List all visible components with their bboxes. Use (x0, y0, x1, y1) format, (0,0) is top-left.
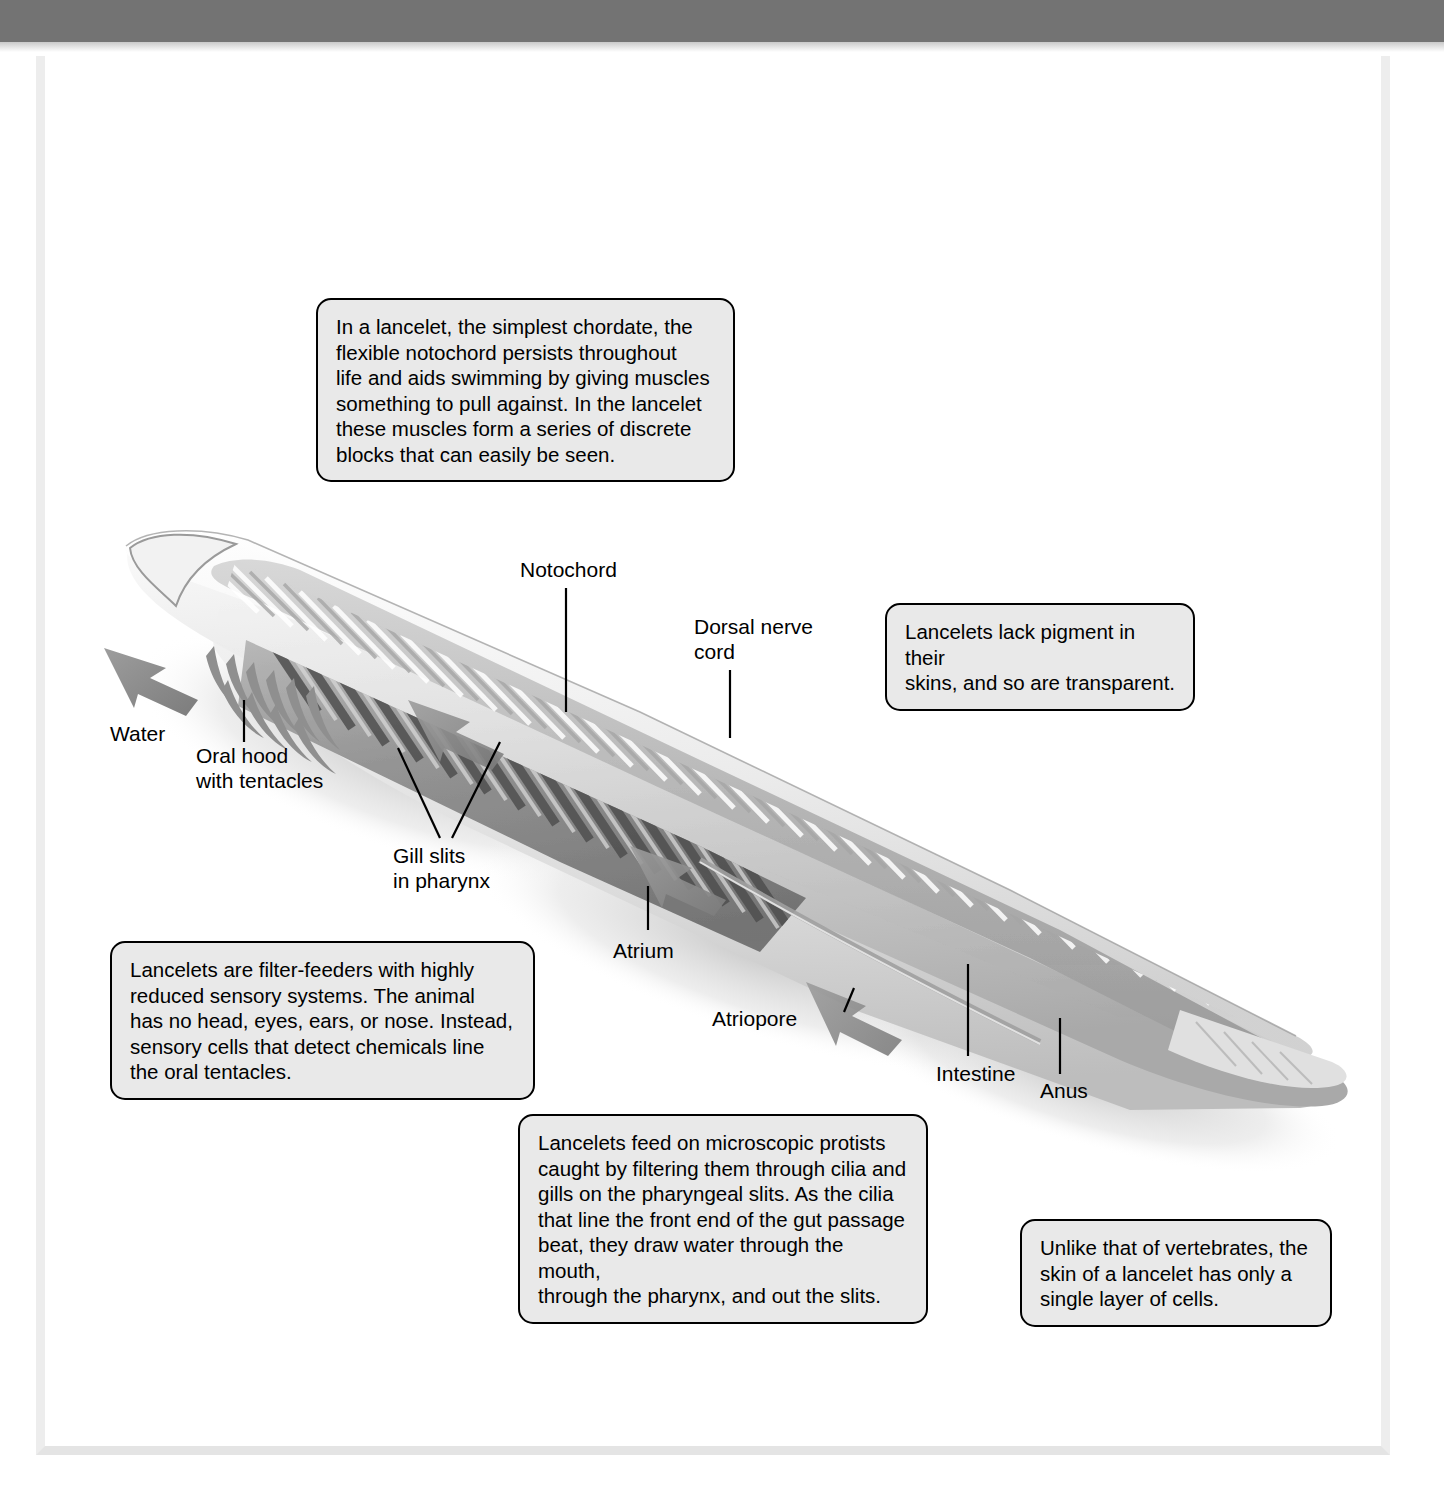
callout-feeding: Lancelets feed on microscopic protists c… (518, 1114, 928, 1324)
callout-skin: Unlike that of vertebrates, the skin of … (1020, 1219, 1332, 1327)
label-anus: Anus (1040, 1079, 1088, 1104)
label-atriopore: Atriopore (712, 1007, 797, 1032)
top-header-bar (0, 0, 1444, 42)
label-atrium: Atrium (613, 939, 674, 964)
callout-pigment: Lancelets lack pigment in their skins, a… (885, 603, 1195, 711)
label-intestine: Intestine (936, 1062, 1015, 1087)
label-water: Water (110, 722, 165, 747)
callout-filter-feeder: Lancelets are filter-feeders with highly… (110, 941, 535, 1100)
header-shadow (0, 42, 1444, 52)
label-dorsal-nerve-cord: Dorsal nerve cord (694, 615, 813, 664)
callout-notochord: In a lancelet, the simplest chordate, th… (316, 298, 735, 482)
label-gill-slits-in-pharynx: Gill slits in pharynx (393, 844, 490, 893)
figure-page: In a lancelet, the simplest chordate, th… (0, 0, 1444, 1503)
label-oral-hood-with-tentacles: Oral hood with tentacles (196, 744, 323, 793)
label-notochord: Notochord (520, 558, 617, 583)
